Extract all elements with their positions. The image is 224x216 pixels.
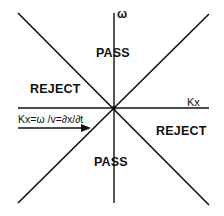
pass-region-top-label: PASS <box>96 47 130 60</box>
omega-axis-label: ω <box>117 8 127 20</box>
fk-filter-diagram: ω Kx PASS REJECT REJECT PASS Kx=ω /v=∂x/… <box>0 0 224 216</box>
pass-region-bottom-label: PASS <box>94 156 128 169</box>
arrow-head-icon <box>81 124 91 132</box>
kx-axis-label: Kx <box>187 97 200 108</box>
origin-point <box>112 106 116 110</box>
velocity-formula-label: Kx=ω /v=∂x/∂t <box>18 114 83 125</box>
diagram-lines <box>0 0 224 216</box>
reject-region-right-label: REJECT <box>156 125 207 138</box>
reject-region-left-label: REJECT <box>30 83 81 96</box>
